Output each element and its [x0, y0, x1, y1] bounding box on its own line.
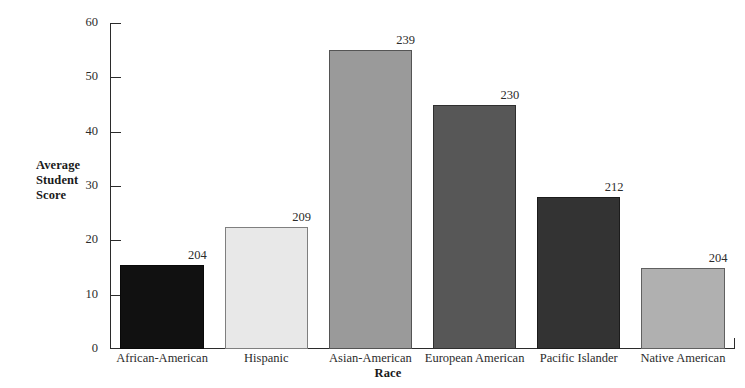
bar[interactable] [537, 197, 620, 349]
bar[interactable] [641, 268, 724, 350]
bar-group[interactable]: 204 [120, 265, 203, 349]
y-axis-tick-label: 50 [62, 69, 98, 84]
y-axis-tick-label: 0 [62, 341, 98, 356]
bar-group[interactable]: 230 [433, 105, 516, 350]
bar-group[interactable]: 239 [329, 50, 412, 349]
bar[interactable] [433, 105, 516, 350]
bar[interactable] [120, 265, 203, 349]
y-axis-tick-label: 10 [62, 287, 98, 302]
x-axis-category-label: European American [423, 351, 527, 366]
bar-group[interactable]: 212 [537, 197, 620, 349]
bar-value-label: 209 [292, 210, 311, 225]
x-axis-title: Race [338, 366, 438, 381]
x-axis-category-label: Native American [631, 351, 735, 366]
bar-value-label: 204 [709, 251, 728, 266]
y-axis-tick-label: 20 [62, 232, 98, 247]
x-axis-category-label: Pacific Islander [527, 351, 631, 366]
plot-area: 204209239230212204 [110, 23, 735, 349]
y-axis-title-line-1: Average [36, 158, 98, 173]
bar-group[interactable]: 209 [225, 227, 308, 349]
x-axis-category-label: Asian-American [318, 351, 422, 366]
bar-value-label: 212 [605, 180, 624, 195]
bar-value-label: 230 [500, 88, 519, 103]
bar[interactable] [225, 227, 308, 349]
y-axis-tick-label: 60 [62, 15, 98, 30]
bar-value-label: 204 [188, 248, 207, 263]
x-axis-category-label: African-American [110, 351, 214, 366]
bar-group[interactable]: 204 [641, 268, 724, 350]
x-axis-category-label: Hispanic [214, 351, 318, 366]
y-axis-tick-label: 40 [62, 124, 98, 139]
bar-value-label: 239 [396, 33, 415, 48]
bar[interactable] [329, 50, 412, 349]
bar-chart: Average Student Score 0102030405060 2042… [0, 0, 745, 388]
y-axis-tick-label: 30 [62, 178, 98, 193]
